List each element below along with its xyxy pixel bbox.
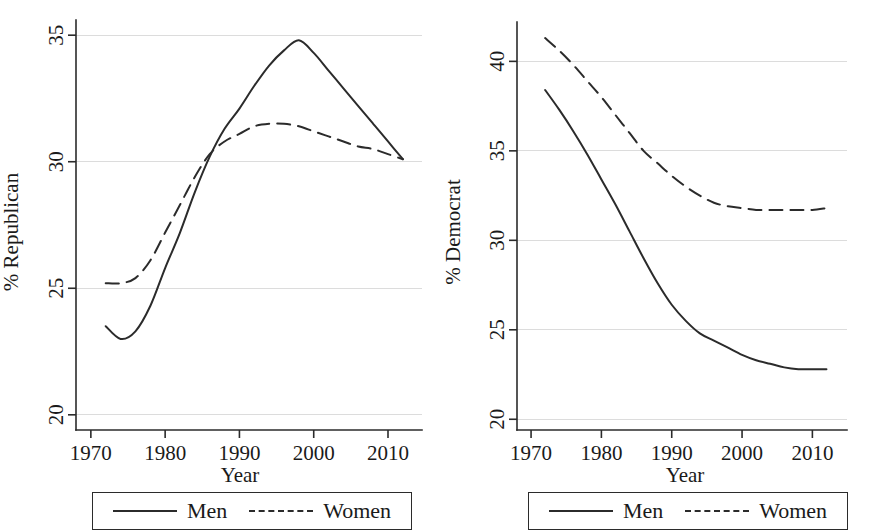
legend-entry-women: Women bbox=[685, 498, 827, 524]
series-democrat bbox=[545, 38, 826, 369]
y-tick-label: 35 bbox=[485, 140, 509, 161]
legend-label-women: Women bbox=[759, 498, 827, 524]
legend-entry-men: Men bbox=[549, 498, 663, 524]
x-tick-label: 2010 bbox=[791, 441, 833, 465]
legend-swatch-solid-line-icon bbox=[549, 510, 613, 512]
tick-labels-democrat: 2025303540 bbox=[485, 51, 509, 430]
legend-democrat: Men Women bbox=[528, 492, 848, 530]
legend-entry-women: Women bbox=[249, 498, 391, 524]
x-tick-label: 1980 bbox=[144, 441, 186, 465]
y-tick-label: 30 bbox=[485, 230, 509, 251]
y-tick-label: 25 bbox=[485, 319, 509, 340]
x-tick-label: 1990 bbox=[218, 441, 260, 465]
y-tick-label: 25 bbox=[44, 278, 68, 299]
series-line-women bbox=[545, 38, 826, 210]
y-tick-label: 30 bbox=[44, 151, 68, 172]
legend-swatch-dashed-line-icon bbox=[249, 510, 313, 512]
legend-label-women: Women bbox=[323, 498, 391, 524]
republican-plot: 20253035 19701980199020002010 % Republic… bbox=[0, 0, 440, 531]
x-tick-label: 1970 bbox=[510, 441, 552, 465]
x-tick-label: 2000 bbox=[721, 441, 763, 465]
y-tick-label: 35 bbox=[44, 25, 68, 46]
x-tick-label: 1970 bbox=[70, 441, 112, 465]
chart-panel-republican: 20253035 19701980199020002010 % Republic… bbox=[0, 0, 440, 531]
y-axis-title-republican: % Republican bbox=[0, 172, 23, 291]
x-axis-title-democrat: Year bbox=[666, 463, 705, 487]
legend-swatch-solid-line-icon bbox=[113, 510, 177, 512]
gridlines-democrat bbox=[517, 61, 847, 419]
tick-labels-republican: 20253035 bbox=[44, 25, 68, 426]
legend-republican: Men Women bbox=[92, 492, 412, 530]
legend-entry-men: Men bbox=[113, 498, 227, 524]
x-tick-label: 2000 bbox=[293, 441, 335, 465]
y-tick-label: 40 bbox=[485, 51, 509, 72]
legend-label-men: Men bbox=[623, 498, 663, 524]
y-ticks-republican bbox=[68, 35, 76, 415]
series-republican bbox=[106, 40, 403, 339]
series-line-women bbox=[106, 123, 403, 283]
legend-label-men: Men bbox=[187, 498, 227, 524]
x-tick-label: 1990 bbox=[651, 441, 693, 465]
x-tick-labels-republican: 19701980199020002010 bbox=[70, 441, 409, 465]
series-line-men bbox=[545, 90, 826, 369]
x-tick-label: 2010 bbox=[367, 441, 409, 465]
y-axis-title-democrat: % Democrat bbox=[441, 179, 465, 285]
axes-republican bbox=[76, 20, 422, 430]
y-tick-label: 20 bbox=[485, 409, 509, 430]
x-tick-labels-democrat: 19701980199020002010 bbox=[510, 441, 833, 465]
legend-swatch-dashed-line-icon bbox=[685, 510, 749, 512]
x-tick-label: 1980 bbox=[580, 441, 622, 465]
chart-panel-democrat: 2025303540 19701980199020002010 % Democr… bbox=[440, 0, 871, 531]
series-line-men bbox=[106, 40, 403, 339]
x-ticks-republican bbox=[91, 430, 388, 438]
democrat-plot: 2025303540 19701980199020002010 % Democr… bbox=[440, 0, 871, 531]
figure-two-panel-party-identification: 20253035 19701980199020002010 % Republic… bbox=[0, 0, 871, 531]
y-ticks-democrat bbox=[509, 61, 517, 419]
x-ticks-democrat bbox=[531, 430, 812, 438]
x-axis-title-republican: Year bbox=[221, 463, 260, 487]
y-tick-label: 20 bbox=[44, 404, 68, 425]
